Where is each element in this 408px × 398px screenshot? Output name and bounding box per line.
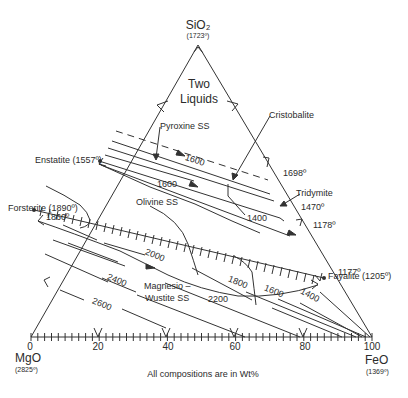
flow-arrow-3 bbox=[287, 230, 296, 235]
isotherm-right-4 bbox=[300, 303, 362, 337]
temp-1860: 1860º bbox=[46, 212, 69, 222]
join-hatches bbox=[40, 207, 314, 284]
footnote: All compositions are in Wt% bbox=[147, 369, 259, 379]
isotherm-mw-3 bbox=[63, 225, 145, 255]
temp-1177: 1177º bbox=[338, 267, 361, 277]
isotherm-2200: 2200 bbox=[208, 294, 228, 304]
cotectic-enstatite bbox=[99, 161, 284, 221]
magnesio-label-2: Wustite SS bbox=[145, 293, 189, 303]
flow-arrow-2 bbox=[189, 181, 198, 187]
fayalite-dot bbox=[322, 276, 326, 280]
forsterite-fayalite-join bbox=[34, 210, 324, 278]
corner-mgo-label: MgO bbox=[15, 351, 41, 365]
corner-feo-label: FeO bbox=[365, 353, 388, 367]
flow-arrow-1 bbox=[176, 150, 185, 156]
two-liquids-label-1: Two bbox=[188, 77, 210, 91]
ternary-diagram-canvas bbox=[0, 0, 408, 398]
cristobalite-pointer-head bbox=[232, 173, 238, 180]
enstatite-branch bbox=[228, 196, 245, 215]
forsterite-arrow bbox=[38, 215, 44, 225]
tick-20: 20 bbox=[92, 341, 103, 352]
corner-sio2-label: SiO₂ bbox=[186, 18, 211, 32]
pyroxine-pointer-head bbox=[153, 154, 159, 160]
left-arrow-2400 bbox=[44, 277, 50, 287]
temp-1178: 1178º bbox=[313, 220, 336, 230]
temp-1470: 1470º bbox=[301, 202, 324, 212]
enstatite-label: Enstatite (1557º) bbox=[35, 155, 102, 165]
corner-feo-temp: (1369º) bbox=[366, 368, 389, 375]
tridymite-pointer-head bbox=[280, 201, 287, 206]
olivine-curve-2 bbox=[150, 206, 198, 275]
corner-sio2-temp: (1723º) bbox=[187, 32, 210, 39]
pyroxine-pointer bbox=[156, 127, 160, 158]
olivine-label: Olivine SS bbox=[136, 197, 178, 207]
magnesio-label-1: Magnesio – bbox=[144, 281, 191, 291]
isotherm-2600 bbox=[60, 290, 84, 300]
olivine-boundary-arrow bbox=[146, 264, 155, 269]
isotherm-right-2 bbox=[246, 292, 356, 337]
corner-mgo-temp: (2825º) bbox=[15, 366, 38, 373]
tick-40: 40 bbox=[162, 341, 173, 352]
cristobalite-pointer bbox=[234, 116, 270, 178]
isotherm-right-3 bbox=[320, 292, 370, 337]
tick-80: 80 bbox=[299, 341, 310, 352]
isotherm-2600b bbox=[122, 309, 166, 328]
isotherm-1400-upper: 1400 bbox=[247, 213, 267, 223]
cristobalite-label: Cristobalite bbox=[269, 110, 314, 120]
temp-1698: 1698º bbox=[283, 168, 306, 178]
axis-v-marks bbox=[94, 328, 307, 337]
tridymite-label: Tridymite bbox=[296, 188, 333, 198]
apex-mark bbox=[194, 47, 203, 53]
mark-1178 bbox=[296, 219, 302, 226]
tick-60: 60 bbox=[229, 341, 240, 352]
tick-0: 0 bbox=[27, 341, 33, 352]
isotherm-1600-mid: 1600 bbox=[157, 179, 177, 189]
pyroxine-label: Pyroxine SS bbox=[160, 121, 210, 131]
two-liquids-label-2: Liquids bbox=[180, 92, 218, 106]
olivine-end-arrow bbox=[311, 280, 318, 289]
tick-100: 100 bbox=[364, 341, 381, 352]
